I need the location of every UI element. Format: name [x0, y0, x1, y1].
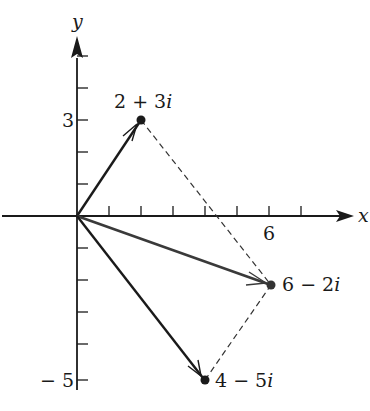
dashed-segment-p3-p2 — [205, 285, 271, 380]
point-label-6-minus-2i: 6 − 2i — [282, 273, 340, 295]
vector-2-plus-3i — [77, 123, 139, 216]
x-axis — [2, 206, 354, 222]
dashed-segment-p1-p2 — [141, 120, 271, 285]
point-2-plus-3i — [137, 116, 146, 125]
point-label-2-plus-3i: 2 + 3i — [114, 90, 172, 112]
y-axis-arrow-icon — [71, 36, 83, 58]
complex-plane-diagram: y x 6 3 − 5 2 + 3i 6 − 2i 4 − 5i — [0, 0, 370, 411]
point-4-minus-5i — [201, 376, 210, 385]
dashed-parallelogram-sides — [141, 120, 271, 380]
x-tick-label-6: 6 — [263, 222, 275, 244]
point-label-4-minus-5i: 4 − 5i — [215, 369, 273, 391]
vector-4-minus-5i — [77, 216, 203, 378]
x-axis-label: x — [358, 204, 369, 226]
y-tick-label-minus-5: − 5 — [40, 369, 74, 391]
y-axis-label: y — [71, 10, 83, 32]
x-axis-ticks — [109, 206, 301, 216]
point-6-minus-2i — [267, 281, 276, 290]
y-tick-label-3: 3 — [62, 109, 74, 131]
vector-6-minus-2i — [77, 216, 268, 285]
